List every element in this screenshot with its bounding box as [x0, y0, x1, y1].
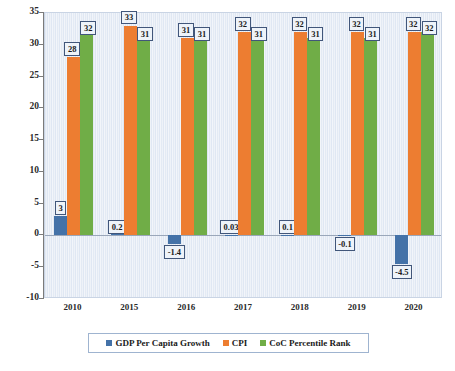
bar-2015-series-2 — [137, 38, 150, 235]
x-axis-tick-label-2016: 2016 — [158, 303, 215, 312]
bar-2020-series-0 — [395, 235, 408, 264]
x-axis-tick-label-2018: 2018 — [271, 303, 328, 312]
y-axis-tick-label: 10 — [5, 166, 39, 176]
bar-2019-series-2 — [364, 38, 377, 235]
data-label-2010-series-0: 3 — [55, 201, 66, 215]
legend-item-coc-percentile-rank[interactable]: CoC Percentile Rank — [260, 338, 350, 348]
bar-2019-series-0 — [338, 235, 351, 236]
plot-inner: 328320.23331-1.431310.0332310.13231-0.13… — [45, 13, 441, 297]
bar-2015-series-1 — [124, 26, 137, 236]
x-axis-tick-label-2019: 2019 — [328, 303, 385, 312]
y-axis-tick-mark — [39, 234, 43, 235]
data-label-2018-series-2: 31 — [308, 27, 324, 41]
bar-2020-series-1 — [408, 32, 421, 235]
data-label-2016-series-0: -1.4 — [164, 245, 184, 259]
bar-2016-series-1 — [181, 38, 194, 235]
chart-legend: GDP Per Capita Growth CPI CoC Percentile… — [88, 333, 369, 353]
data-label-2018-series-1: 32 — [292, 17, 308, 31]
y-axis-tick-label: 25 — [5, 71, 39, 81]
data-label-2019-series-1: 32 — [349, 17, 365, 31]
plot-area: 328320.23331-1.431310.0332310.13231-0.13… — [44, 12, 442, 298]
data-label-2019-series-2: 31 — [365, 27, 381, 41]
bar-2020-series-2 — [421, 32, 434, 235]
legend-label-gdp: GDP Per Capita Growth — [115, 338, 209, 348]
x-axis-tick-label-2015: 2015 — [101, 303, 158, 312]
legend-label-coc: CoC Percentile Rank — [269, 338, 350, 348]
data-label-2019-series-0: -0.1 — [335, 237, 355, 251]
legend-label-cpi: CPI — [232, 338, 248, 348]
bar-2010-series-1 — [67, 57, 80, 235]
data-label-2017-series-2: 31 — [251, 27, 267, 41]
bar-2018-series-0 — [281, 235, 294, 236]
y-axis-tick-label: 15 — [5, 134, 39, 144]
y-axis-tick-label: 35 — [5, 7, 39, 17]
bar-2016-series-0 — [168, 235, 181, 244]
data-label-2020-series-0: -4.5 — [392, 265, 412, 279]
y-axis-tick-label: 5 — [5, 198, 39, 208]
bar-2017-series-2 — [251, 38, 264, 235]
bar-2018-series-1 — [294, 32, 307, 235]
legend-swatch-icon-coc — [260, 340, 266, 346]
y-axis-tick-mark — [39, 139, 43, 140]
data-label-2010-series-1: 28 — [64, 42, 80, 56]
y-axis-tick-mark — [39, 298, 43, 299]
bar-2017-series-1 — [238, 32, 251, 235]
legend-item-cpi[interactable]: CPI — [223, 338, 248, 348]
y-axis-tick-mark — [39, 171, 43, 172]
data-label-2016-series-2: 31 — [194, 27, 210, 41]
bar-2018-series-2 — [307, 38, 320, 235]
bar-2010-series-2 — [80, 32, 93, 235]
y-axis-tick-mark — [39, 266, 43, 267]
bar-2019-series-1 — [351, 32, 364, 235]
data-label-2017-series-1: 32 — [235, 17, 251, 31]
data-label-2015-series-1: 33 — [121, 11, 137, 25]
y-axis-tick-mark — [39, 44, 43, 45]
bar-2010-series-0 — [54, 216, 67, 235]
y-axis-tick-mark — [39, 107, 43, 108]
y-axis-tick-label: -5 — [5, 261, 39, 271]
x-axis-tick-label-2010: 2010 — [44, 303, 101, 312]
y-axis-tick-label: -10 — [5, 293, 39, 303]
y-axis-tick-mark — [39, 12, 43, 13]
y-axis-tick-mark — [39, 203, 43, 204]
legend-swatch-icon-gdp — [106, 340, 112, 346]
bar-chart: 35302520151050-5-10 328320.23331-1.43131… — [0, 0, 455, 371]
data-label-2016-series-1: 31 — [178, 23, 194, 37]
y-axis-tick-mark — [39, 76, 43, 77]
data-label-2020-series-2: 32 — [422, 21, 438, 35]
data-label-2010-series-2: 32 — [80, 21, 96, 35]
y-axis-tick-label: 30 — [5, 39, 39, 49]
x-axis-tick-label-2017: 2017 — [215, 303, 272, 312]
bar-2017-series-0 — [225, 235, 238, 236]
x-axis-tick-label-2020: 2020 — [385, 303, 442, 312]
bar-2016-series-2 — [194, 38, 207, 235]
bar-2015-series-0 — [111, 234, 124, 235]
data-label-2015-series-2: 31 — [137, 27, 153, 41]
zero-baseline — [45, 235, 441, 236]
y-axis-tick-label: 0 — [5, 229, 39, 239]
y-axis-tick-label: 20 — [5, 102, 39, 112]
legend-item-gdp-per-capita-growth[interactable]: GDP Per Capita Growth — [106, 338, 209, 348]
data-label-2020-series-1: 32 — [406, 17, 422, 31]
legend-swatch-icon-cpi — [223, 340, 229, 346]
